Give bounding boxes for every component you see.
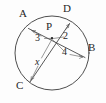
leader-segment-pc [31,66,38,80]
segment-label-ap: 3 [35,33,40,43]
point-p-dot [51,37,54,40]
geometry-figure: A B C D P 3 2 4 x [0,0,106,103]
point-label-b: B [88,42,95,53]
segment-label-pb: 4 [62,47,67,57]
segment-label-pc: x [35,57,39,67]
point-label-d: D [63,3,71,14]
point-label-p: P [46,21,52,32]
segment-label-pd: 2 [63,31,68,41]
point-label-c: C [16,80,23,91]
leader-x-to-p [42,41,52,58]
point-label-a: A [19,8,27,19]
